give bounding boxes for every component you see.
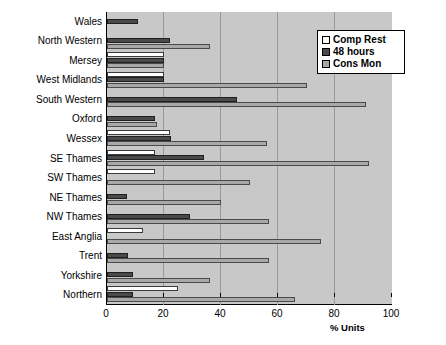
bar-group [107, 12, 392, 32]
bar-group [107, 110, 392, 130]
bar-group [107, 149, 392, 169]
bar [107, 286, 178, 291]
bar [107, 38, 170, 43]
bar [107, 155, 204, 160]
y-axis-label: Wessex [0, 134, 102, 144]
bar [107, 141, 267, 146]
y-axis-label: North Western [0, 36, 102, 46]
legend-label: Cons Mon [333, 59, 381, 69]
legend-label: Comp Rest [333, 35, 386, 45]
bar [107, 180, 250, 185]
legend-label: 48 hours [333, 47, 375, 57]
x-tick-label: 40 [205, 308, 235, 319]
bar [107, 272, 133, 277]
y-axis-label: East Anglia [0, 232, 102, 242]
legend-swatch-icon [322, 48, 330, 56]
bar [107, 239, 321, 244]
bar [107, 150, 155, 155]
bar [107, 214, 190, 219]
x-axis-tick [106, 293, 107, 297]
x-tick-label: 100 [376, 308, 406, 319]
bar [107, 161, 369, 166]
legend-item: Cons Mon [322, 58, 400, 70]
legend-swatch-icon [322, 60, 330, 68]
y-axis-label: Trent [0, 251, 102, 261]
bar [107, 136, 171, 141]
y-axis-label: South Western [0, 95, 102, 105]
bar [107, 52, 164, 57]
bar [107, 169, 155, 174]
bar [107, 77, 164, 82]
y-axis-label: SE Thames [0, 154, 102, 164]
bar-group [107, 188, 392, 208]
y-axis-label: Wales [0, 17, 102, 27]
y-axis-label: Northern [0, 290, 102, 300]
x-axis-tick [220, 293, 221, 297]
bar [107, 97, 237, 102]
x-axis-tick [391, 293, 392, 297]
y-axis-label: SW Thames [0, 173, 102, 183]
bar-group [107, 246, 392, 266]
bar-group [107, 90, 392, 110]
chart-legend: Comp Rest48 hoursCons Mon [317, 30, 405, 74]
bar [107, 72, 164, 77]
legend-item: Comp Rest [322, 34, 400, 46]
bar [107, 253, 128, 258]
bar [107, 83, 307, 88]
legend-swatch-icon [322, 36, 330, 44]
x-tick-label: 60 [262, 308, 292, 319]
y-axis-label: Mersey [0, 56, 102, 66]
y-axis-label: Oxford [0, 114, 102, 124]
bar [107, 19, 138, 24]
bar [107, 219, 269, 224]
y-axis-label: NW Thames [0, 212, 102, 222]
bar [107, 44, 210, 49]
legend-item: 48 hours [322, 46, 400, 58]
bar [107, 63, 164, 68]
x-tick-label: 80 [319, 308, 349, 319]
bar [107, 58, 164, 63]
horizontal-bar-chart: WalesNorth WesternMerseyWest MidlandsSou… [0, 0, 446, 345]
y-axis-label: Yorkshire [0, 271, 102, 281]
x-tick-label: 0 [91, 308, 121, 319]
bar-group [107, 129, 392, 149]
bar [107, 292, 133, 297]
bar [107, 102, 366, 107]
x-axis-tick [163, 293, 164, 297]
bar [107, 122, 157, 127]
bar-group [107, 285, 392, 305]
bar [107, 116, 155, 121]
bar [107, 297, 295, 302]
y-axis-label: West Midlands [0, 75, 102, 85]
y-axis-label: NE Thames [0, 193, 102, 203]
bar [107, 258, 269, 263]
x-tick-label: 20 [148, 308, 178, 319]
bar-group [107, 207, 392, 227]
bar-group [107, 168, 392, 188]
bar [107, 194, 127, 199]
bar [107, 200, 221, 205]
bar [107, 278, 210, 283]
bar [107, 130, 170, 135]
bar-group [107, 266, 392, 286]
x-axis-tick [334, 293, 335, 297]
bar-group [107, 227, 392, 247]
bar [107, 228, 143, 233]
x-axis-tick [277, 293, 278, 297]
y-axis-category-labels: WalesNorth WesternMerseyWest MidlandsSou… [0, 12, 102, 305]
x-axis-title: % Units [330, 322, 365, 333]
